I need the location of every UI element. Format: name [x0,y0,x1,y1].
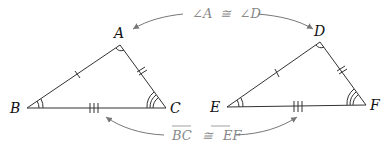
vertex-label-e: E [209,99,220,115]
congruent-triangles-diagram: A B C D E F ∠A ≅ ∠D BC ≅ EF [0,0,392,148]
vertex-label-c: C [170,100,181,116]
vertex-label-a: A [112,25,124,41]
angle-congruence-annotation: ∠A ≅ ∠D [133,6,313,29]
arrow-to-bc-icon [106,117,164,135]
side-bc-text: BC [171,128,192,143]
vertex-label-b: B [9,100,20,116]
side-congruence-annotation: BC ≅ EF [106,117,297,143]
arrow-to-ef-icon [236,117,297,135]
triangle-def [227,42,366,112]
vertex-label-d: D [313,23,325,39]
angle-a-text: ∠A [192,6,212,21]
vertex-label-f: F [369,97,381,113]
svg-text:BC ≅ EF: BC ≅ EF [171,128,243,143]
triangle-abc [27,45,166,113]
svg-text:∠A ≅ ∠D: ∠A ≅ ∠D [192,6,261,21]
arrow-to-a-icon [133,14,183,29]
arrow-to-d-icon [258,14,313,29]
